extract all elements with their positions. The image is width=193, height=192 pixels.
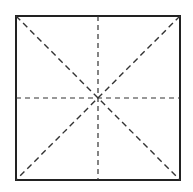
fold-diagram [0, 0, 193, 192]
